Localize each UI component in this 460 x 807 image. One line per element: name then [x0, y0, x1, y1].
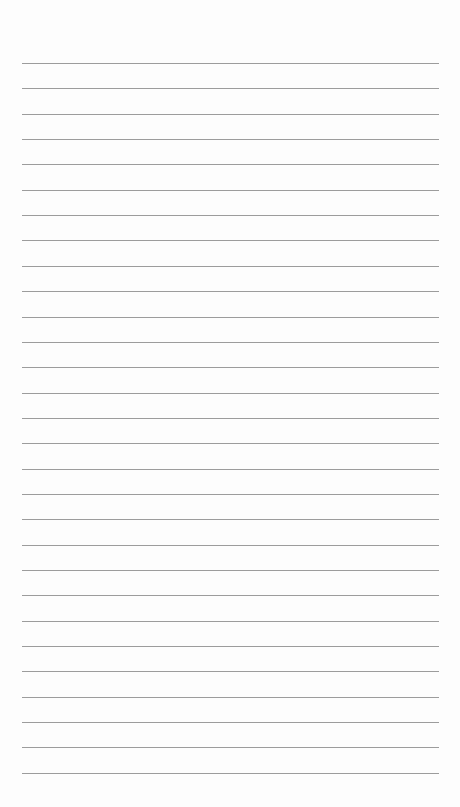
ruled-line	[22, 367, 439, 368]
ruled-line	[22, 722, 439, 723]
ruled-line	[22, 342, 439, 343]
ruled-line	[22, 646, 439, 647]
lined-paper-sheet	[0, 0, 460, 807]
ruled-line	[22, 215, 439, 216]
ruled-line	[22, 190, 439, 191]
ruled-line	[22, 570, 439, 571]
ruled-line	[22, 418, 439, 419]
ruled-line	[22, 88, 439, 89]
ruled-line	[22, 63, 439, 64]
ruled-line	[22, 469, 439, 470]
ruled-line	[22, 443, 439, 444]
ruled-line	[22, 164, 439, 165]
ruled-line	[22, 393, 439, 394]
ruled-line	[22, 494, 439, 495]
ruled-line	[22, 747, 439, 748]
ruled-line	[22, 773, 439, 774]
ruled-line	[22, 595, 439, 596]
ruled-line	[22, 114, 439, 115]
ruled-line	[22, 671, 439, 672]
ruled-line	[22, 291, 439, 292]
ruled-line	[22, 266, 439, 267]
ruled-line	[22, 519, 439, 520]
ruled-line	[22, 621, 439, 622]
ruled-line	[22, 697, 439, 698]
ruled-line	[22, 139, 439, 140]
ruled-line	[22, 545, 439, 546]
ruled-line	[22, 240, 439, 241]
ruled-line	[22, 317, 439, 318]
